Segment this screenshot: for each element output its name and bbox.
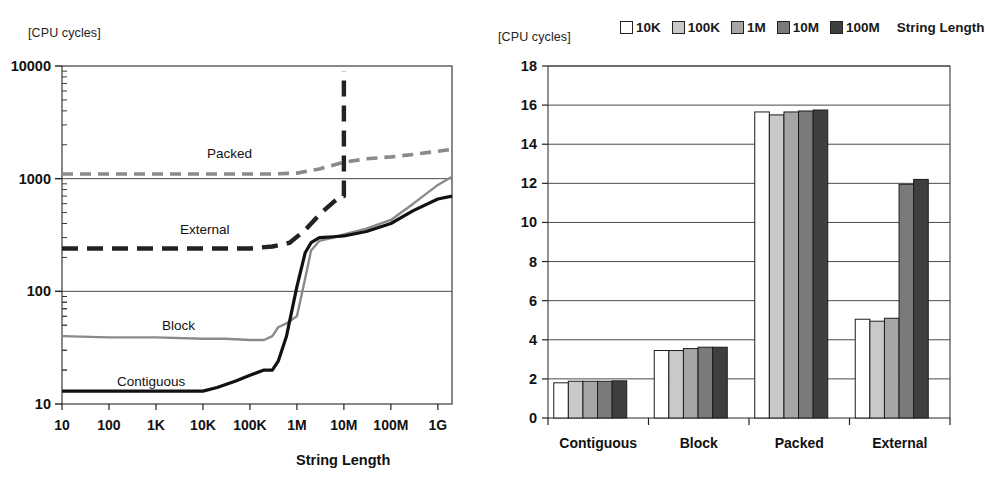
bar-external-1m — [884, 318, 899, 418]
left-x-tick-label: 100 — [97, 417, 121, 433]
bar-packed-10k — [755, 112, 770, 418]
right-y-tick-label: 2 — [529, 371, 537, 387]
left-x-tick-label: 100M — [373, 417, 408, 433]
right-y-tick-label: 0 — [529, 410, 537, 426]
legend-swatch-icon — [620, 21, 633, 34]
legend-swatch-icon — [731, 21, 744, 34]
legend-title: String Length — [897, 20, 985, 35]
bar-packed-10m — [799, 111, 814, 418]
bar-external-10m — [899, 184, 914, 418]
left-y-tick-label: 100 — [27, 283, 51, 299]
right-y-tick-label: 18 — [521, 58, 537, 74]
right-y-axis-unit-label: [CPU cycles] — [498, 30, 571, 44]
line-chart-panel: [CPU cycles] 10100100010000101001K10K100… — [0, 0, 480, 492]
bar-category-label-external: External — [872, 435, 927, 451]
right-y-tick-label: 14 — [521, 136, 537, 152]
left-x-axis-title: String Length — [296, 452, 390, 468]
bar-block-100m — [713, 347, 728, 418]
legend-item-label: 1M — [747, 20, 766, 35]
line-series-label-contiguous: Contiguous — [115, 374, 187, 389]
legend-swatch-icon — [672, 21, 685, 34]
line-series-label-block: Block — [160, 318, 197, 333]
bar-category-label-block: Block — [680, 435, 718, 451]
left-y-tick-label: 1000 — [19, 171, 51, 187]
bar-chart-panel: [CPU cycles] 10K100K1M10M100MString Leng… — [480, 0, 985, 492]
bar-contiguous-100k — [568, 381, 583, 418]
bar-external-100k — [870, 321, 885, 418]
right-y-tick-label: 16 — [521, 97, 537, 113]
bar-contiguous-10k — [554, 383, 569, 418]
legend-item-100k[interactable]: 100K — [672, 20, 720, 35]
legend-swatch-icon — [777, 21, 790, 34]
bar-block-10m — [698, 347, 713, 418]
legend-item-label: 10K — [636, 20, 661, 35]
left-x-tick-label: 10M — [330, 417, 357, 433]
bar-category-label-contiguous: Contiguous — [559, 435, 637, 451]
left-x-tick-label: 10 — [54, 417, 70, 433]
line-chart-svg: 10100100010000101001K10K100K1M10M100M1G — [0, 0, 480, 492]
legend-item-100m[interactable]: 100M — [830, 20, 880, 35]
bar-block-100k — [669, 351, 684, 418]
legend-item-label: 100K — [688, 20, 720, 35]
legend-item-10k[interactable]: 10K — [620, 20, 661, 35]
bar-contiguous-1m — [583, 381, 598, 418]
bar-chart-legend: 10K100K1M10M100MString Length — [620, 20, 985, 35]
right-y-tick-label: 10 — [521, 214, 537, 230]
left-x-tick-label: 1M — [287, 417, 306, 433]
bar-packed-1m — [784, 112, 799, 418]
bar-external-10k — [855, 319, 870, 418]
right-y-tick-label: 12 — [521, 175, 537, 191]
bar-contiguous-100m — [612, 381, 627, 418]
legend-item-label: 10M — [793, 20, 819, 35]
right-y-tick-label: 4 — [529, 332, 537, 348]
bar-chart-svg: 024681012141618ContiguousBlockPackedExte… — [480, 0, 985, 492]
left-y-axis-unit-label: [CPU cycles] — [28, 26, 101, 40]
bar-packed-100m — [813, 110, 828, 418]
left-x-tick-label: 1K — [147, 417, 165, 433]
bar-category-label-packed: Packed — [775, 435, 824, 451]
line-series-label-external: External — [178, 222, 232, 237]
left-y-tick-label: 10 — [35, 396, 51, 412]
bar-block-1m — [683, 349, 698, 418]
figure-two-charts: [CPU cycles] 10100100010000101001K10K100… — [0, 0, 985, 492]
right-y-tick-label: 8 — [529, 254, 537, 270]
bar-packed-100k — [769, 115, 784, 418]
left-x-tick-label: 1G — [429, 417, 448, 433]
legend-item-1m[interactable]: 1M — [731, 20, 766, 35]
legend-item-label: 100M — [846, 20, 880, 35]
bar-external-100m — [914, 179, 929, 418]
left-x-tick-label: 10K — [190, 417, 216, 433]
bar-block-10k — [654, 351, 669, 418]
left-y-tick-label: 10000 — [11, 58, 51, 74]
right-y-tick-label: 6 — [529, 293, 537, 309]
bar-contiguous-10m — [598, 381, 613, 418]
legend-item-10m[interactable]: 10M — [777, 20, 819, 35]
legend-swatch-icon — [830, 21, 843, 34]
line-series-label-packed: Packed — [205, 146, 254, 161]
left-x-tick-label: 100K — [233, 417, 266, 433]
